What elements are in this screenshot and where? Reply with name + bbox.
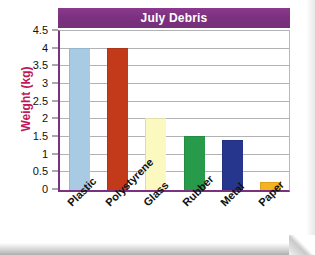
bars-group bbox=[60, 31, 289, 190]
y-tick-label: 1 bbox=[42, 148, 48, 160]
y-tick-label: 2 bbox=[42, 112, 48, 124]
y-tick-label: 0.5 bbox=[33, 165, 48, 177]
y-tick-label: 0 bbox=[42, 183, 48, 195]
y-tick-label: 3 bbox=[42, 77, 48, 89]
y-tick-label: 3.5 bbox=[33, 59, 48, 71]
y-tick-label: 1.5 bbox=[33, 130, 48, 142]
plot-area bbox=[58, 30, 290, 192]
y-axis: Weight (kg) 00.511.522.533.544.5 bbox=[0, 30, 58, 192]
y-tick-label: 4.5 bbox=[33, 24, 48, 36]
x-axis-labels: PlasticPolystyreneGlassRubberMetalPaper bbox=[58, 192, 290, 254]
y-axis-title: Weight (kg) bbox=[19, 49, 33, 149]
scanned-page: July Debris Weight (kg) 00.511.522.533.5… bbox=[0, 0, 315, 255]
bar-chart: July Debris Weight (kg) 00.511.522.533.5… bbox=[0, 0, 315, 255]
bar-polystyrene bbox=[107, 48, 128, 190]
y-tick-label: 4 bbox=[42, 42, 48, 54]
chart-title: July Debris bbox=[58, 11, 290, 25]
bar-plastic bbox=[69, 48, 90, 190]
y-tick-label: 2.5 bbox=[33, 95, 48, 107]
chart-title-bar: July Debris bbox=[58, 8, 290, 28]
